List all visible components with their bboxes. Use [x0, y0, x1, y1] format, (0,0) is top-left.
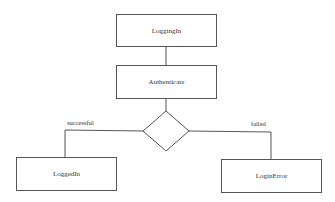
state-label: LoggedIn: [53, 170, 80, 178]
state-logged-in[interactable]: LoggedIn: [16, 157, 117, 191]
state-login-error[interactable]: LoginError: [221, 159, 322, 193]
state-authenticate[interactable]: Authenticate: [116, 65, 217, 99]
transition-label-failed: failed: [251, 120, 266, 127]
state-label: Authenticate: [149, 78, 185, 86]
state-label: LoginError: [256, 172, 288, 180]
decision-diamond[interactable]: [143, 111, 189, 151]
transition-label-successful: successful: [67, 119, 94, 126]
state-label: LoggingIn: [152, 27, 182, 35]
state-logging-in[interactable]: LoggingIn: [116, 14, 217, 47]
edge-decision-loginerror: [189, 131, 271, 159]
edge-decision-loggedin: [65, 130, 143, 157]
